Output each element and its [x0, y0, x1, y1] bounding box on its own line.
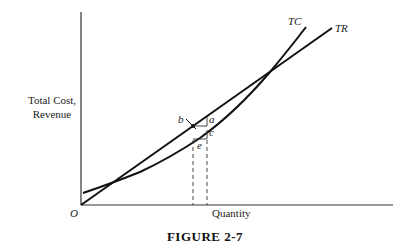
y-axis-label-line1: Total Cost, [20, 93, 84, 107]
figure-caption: FIGURE 2-7 [0, 229, 404, 245]
point-b-dot [191, 124, 195, 128]
label-tc: TC [288, 15, 302, 27]
label-b: b [178, 113, 184, 125]
label-e: e [197, 139, 202, 151]
label-tr: TR [335, 22, 348, 34]
y-axis-label: Total Cost, Revenue [20, 93, 84, 121]
origin-label: O [70, 207, 78, 219]
label-c: c [209, 126, 214, 138]
y-axis-label-line2: Revenue [20, 107, 84, 121]
tr-line [81, 28, 332, 205]
label-a: a [209, 113, 215, 125]
x-axis-label: Quantity [212, 207, 251, 219]
tc-curve [83, 27, 306, 193]
diagram-canvas: b a c e TC TR O [0, 0, 404, 246]
